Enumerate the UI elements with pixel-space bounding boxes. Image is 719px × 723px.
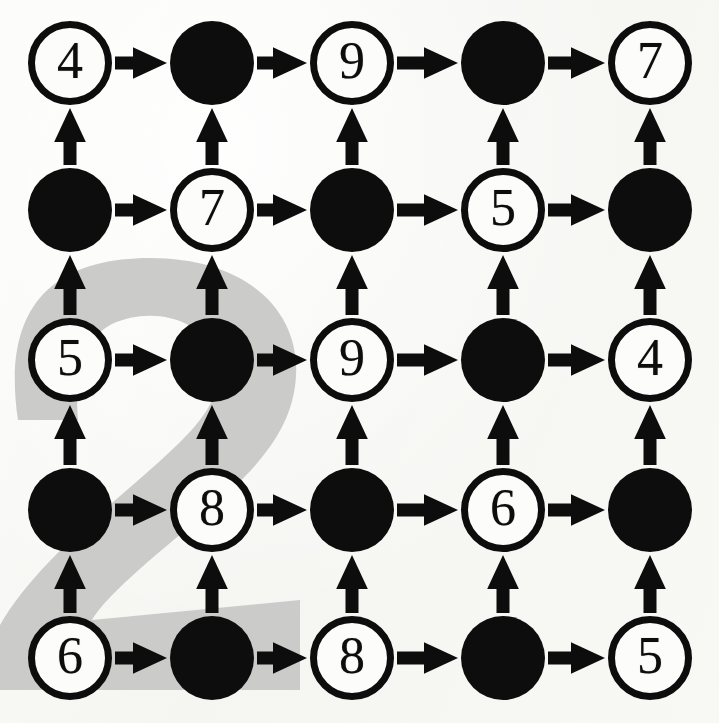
arrow-up-icon bbox=[485, 255, 521, 315]
arrow-right-icon bbox=[548, 192, 605, 228]
arrow-right-icon bbox=[548, 640, 605, 676]
node-digit-label: 5 bbox=[637, 630, 663, 682]
arrow-up-icon bbox=[334, 555, 370, 613]
arrow-up-icon bbox=[334, 405, 370, 465]
graph-node-r3c2-filled[interactable] bbox=[310, 468, 394, 552]
graph-node-r2c4-open[interactable]: 4 bbox=[608, 318, 692, 402]
arrow-up-icon bbox=[194, 405, 230, 465]
arrow-up-icon bbox=[52, 555, 88, 613]
graph-node-r2c1-filled[interactable] bbox=[170, 318, 254, 402]
arrow-right-icon bbox=[257, 192, 307, 228]
figure-canvas: 4977559486685 bbox=[0, 0, 719, 723]
arrow-right-icon bbox=[397, 192, 458, 228]
arrow-up-icon bbox=[52, 108, 88, 165]
arrow-right-icon bbox=[115, 45, 167, 81]
node-digit-label: 7 bbox=[637, 35, 663, 87]
arrow-right-icon bbox=[548, 45, 605, 81]
graph-node-r0c0-open[interactable]: 4 bbox=[28, 21, 112, 105]
arrow-up-icon bbox=[485, 555, 521, 613]
arrow-up-icon bbox=[632, 108, 668, 165]
node-digit-label: 6 bbox=[490, 482, 516, 534]
node-digit-label: 7 bbox=[199, 182, 225, 234]
arrow-up-icon bbox=[334, 255, 370, 315]
graph-node-r0c2-open[interactable]: 9 bbox=[310, 21, 394, 105]
arrow-right-icon bbox=[397, 342, 458, 378]
arrow-up-icon bbox=[632, 255, 668, 315]
graph-node-r1c1-open[interactable]: 7 bbox=[170, 168, 254, 252]
arrow-right-icon bbox=[115, 342, 167, 378]
node-digit-label: 8 bbox=[339, 630, 365, 682]
arrow-right-icon bbox=[257, 492, 307, 528]
arrow-up-icon bbox=[52, 405, 88, 465]
node-digit-label: 9 bbox=[339, 35, 365, 87]
graph-node-r0c1-filled[interactable] bbox=[170, 21, 254, 105]
node-digit-label: 5 bbox=[490, 182, 516, 234]
arrow-right-icon bbox=[257, 342, 307, 378]
node-digit-label: 6 bbox=[57, 630, 83, 682]
graph-node-r3c3-open[interactable]: 6 bbox=[461, 468, 545, 552]
arrow-right-icon bbox=[115, 640, 167, 676]
arrow-up-icon bbox=[632, 555, 668, 613]
graph-node-r4c0-open[interactable]: 6 bbox=[28, 616, 112, 700]
graph-node-r1c4-filled[interactable] bbox=[608, 168, 692, 252]
arrow-up-icon bbox=[485, 405, 521, 465]
graph-node-r4c1-filled[interactable] bbox=[170, 616, 254, 700]
arrow-right-icon bbox=[548, 342, 605, 378]
graph-node-r3c1-open[interactable]: 8 bbox=[170, 468, 254, 552]
graph-node-r1c2-filled[interactable] bbox=[310, 168, 394, 252]
arrow-up-icon bbox=[194, 555, 230, 613]
arrow-up-icon bbox=[194, 108, 230, 165]
arrow-right-icon bbox=[397, 45, 458, 81]
node-digit-label: 4 bbox=[637, 332, 663, 384]
arrow-up-icon bbox=[632, 405, 668, 465]
node-digit-label: 4 bbox=[57, 35, 83, 87]
arrow-up-icon bbox=[334, 108, 370, 165]
arrow-up-icon bbox=[194, 255, 230, 315]
node-digit-label: 9 bbox=[339, 332, 365, 384]
arrow-right-icon bbox=[397, 640, 458, 676]
graph-node-r2c2-open[interactable]: 9 bbox=[310, 318, 394, 402]
graph-node-r0c4-open[interactable]: 7 bbox=[608, 21, 692, 105]
arrow-right-icon bbox=[548, 492, 605, 528]
graph-node-r4c4-open[interactable]: 5 bbox=[608, 616, 692, 700]
arrow-right-icon bbox=[115, 192, 167, 228]
graph-node-r4c3-filled[interactable] bbox=[461, 616, 545, 700]
graph-node-r2c3-filled[interactable] bbox=[461, 318, 545, 402]
graph-node-r4c2-open[interactable]: 8 bbox=[310, 616, 394, 700]
graph-layer: 4977559486685 bbox=[0, 0, 719, 723]
arrow-right-icon bbox=[257, 640, 307, 676]
graph-node-r0c3-filled[interactable] bbox=[461, 21, 545, 105]
arrow-right-icon bbox=[257, 45, 307, 81]
graph-node-r1c0-filled[interactable] bbox=[28, 168, 112, 252]
arrow-right-icon bbox=[397, 492, 458, 528]
arrow-up-icon bbox=[485, 108, 521, 165]
arrow-up-icon bbox=[52, 255, 88, 315]
graph-node-r3c4-filled[interactable] bbox=[608, 468, 692, 552]
node-digit-label: 8 bbox=[199, 482, 225, 534]
node-digit-label: 5 bbox=[57, 332, 83, 384]
graph-node-r3c0-filled[interactable] bbox=[28, 468, 112, 552]
arrow-right-icon bbox=[115, 492, 167, 528]
graph-node-r2c0-open[interactable]: 5 bbox=[28, 318, 112, 402]
graph-node-r1c3-open[interactable]: 5 bbox=[461, 168, 545, 252]
